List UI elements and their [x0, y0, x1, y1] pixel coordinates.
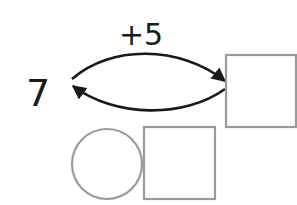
operation-label: +5 — [119, 17, 163, 52]
forward-arrow-icon — [72, 54, 225, 81]
backward-arrow-icon — [73, 86, 225, 110]
start-number: 7 — [26, 71, 50, 115]
answer-box[interactable] — [144, 127, 215, 199]
result-box[interactable] — [226, 55, 296, 127]
operator-circle[interactable] — [72, 129, 142, 199]
inverse-operation-diagram: +5 7 — [0, 0, 297, 205]
